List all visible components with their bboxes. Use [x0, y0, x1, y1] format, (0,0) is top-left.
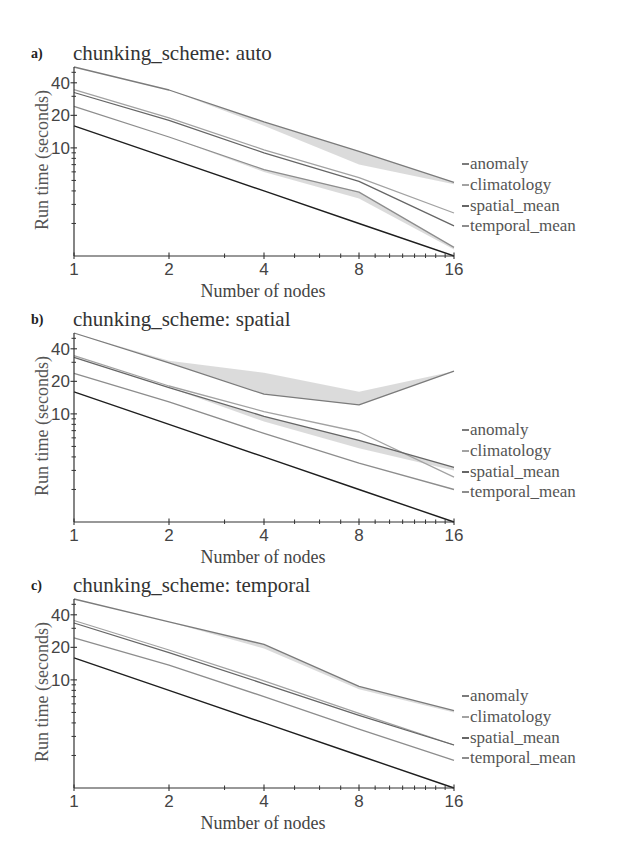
y-tick-label: 10 [51, 405, 70, 424]
legend-label: temporal_mean [470, 748, 576, 768]
legend-swatch-icon [462, 695, 469, 697]
y-axis-label: Run time (seconds) [32, 60, 52, 260]
panel-title: chunking_scheme: spatial [73, 307, 291, 332]
confidence-band-anomaly [74, 599, 454, 712]
x-tick-label: 8 [354, 792, 363, 811]
legend-item-spatial-mean: spatial_mean [462, 461, 576, 482]
legend-swatch-icon [462, 205, 469, 207]
legend-item-climatology: climatology [462, 175, 576, 196]
legend-label: anomaly [470, 154, 529, 174]
y-axis-label: Run time (seconds) [32, 326, 52, 526]
legend-swatch-icon [462, 225, 469, 227]
series-line-temporal-mean [74, 106, 454, 247]
legend-item-temporal-mean: temporal_mean [462, 748, 576, 769]
legend-item-climatology: climatology [462, 707, 576, 728]
legend-item-anomaly: anomaly [462, 420, 576, 441]
x-axis-label: Number of nodes [163, 812, 363, 834]
legend-label: climatology [470, 707, 551, 727]
legend: anomaly climatology spatial_mean tempora… [462, 154, 576, 237]
panel-title: chunking_scheme: auto [73, 41, 272, 66]
x-tick-label: 4 [259, 792, 268, 811]
figure: 102040124816 a) chunking_scheme: auto Ru… [0, 0, 619, 867]
legend-item-anomaly: anomaly [462, 686, 576, 707]
legend-item-temporal-mean: temporal_mean [462, 216, 576, 237]
y-tick-label: 10 [51, 139, 70, 158]
confidence-band-temporal-mean [74, 106, 454, 249]
series-line-ideal [74, 658, 454, 788]
legend-swatch-icon [462, 737, 469, 739]
x-tick-label: 1 [69, 792, 78, 811]
legend-swatch-icon [462, 471, 469, 473]
legend-label: spatial_mean [470, 728, 560, 748]
panel-auto: 102040124816 a) chunking_scheme: auto Ru… [0, 0, 619, 266]
panel-spatial: 102040124816 b) chunking_scheme: spatial… [0, 266, 619, 532]
legend-label: anomaly [470, 686, 529, 706]
series-line-ideal [74, 126, 454, 256]
legend-swatch-icon [462, 429, 469, 431]
y-tick-label: 20 [51, 372, 70, 391]
legend-label: temporal_mean [470, 482, 576, 502]
legend: anomaly climatology spatial_mean tempora… [462, 420, 576, 503]
legend-swatch-icon [462, 450, 469, 452]
confidence-band-anomaly [74, 67, 454, 184]
x-tick-label: 16 [445, 792, 464, 811]
legend-item-anomaly: anomaly [462, 154, 576, 175]
legend-swatch-icon [462, 716, 469, 718]
legend-item-spatial-mean: spatial_mean [462, 727, 576, 748]
y-tick-label: 20 [51, 638, 70, 657]
series-line-temporal-mean [74, 638, 454, 761]
y-tick-label: 40 [51, 74, 70, 93]
y-tick-label: 40 [51, 606, 70, 625]
legend-item-temporal-mean: temporal_mean [462, 482, 576, 503]
series-line-climatology [74, 621, 454, 746]
legend: anomaly climatology spatial_mean tempora… [462, 686, 576, 769]
series-line-spatial-mean [74, 93, 454, 226]
legend-label: temporal_mean [470, 216, 576, 236]
legend-label: anomaly [470, 420, 529, 440]
legend-label: climatology [470, 441, 551, 461]
panel-title: chunking_scheme: temporal [73, 573, 310, 598]
y-tick-label: 20 [51, 106, 70, 125]
legend-swatch-icon [462, 163, 469, 165]
x-tick-label: 2 [164, 792, 173, 811]
legend-swatch-icon [462, 184, 469, 186]
legend-label: spatial_mean [470, 196, 560, 216]
legend-label: spatial_mean [470, 462, 560, 482]
legend-item-climatology: climatology [462, 441, 576, 462]
series-line-anomaly [74, 333, 454, 405]
y-tick-label: 40 [51, 340, 70, 359]
panel-temporal: 102040124816 c) chunking_scheme: tempora… [0, 532, 619, 798]
series-line-spatial-mean [74, 623, 454, 745]
y-tick-label: 10 [51, 671, 70, 690]
legend-swatch-icon [462, 491, 469, 493]
legend-label: climatology [470, 175, 551, 195]
series-line-climatology [74, 90, 454, 213]
legend-swatch-icon [462, 757, 469, 759]
legend-item-spatial-mean: spatial_mean [462, 195, 576, 216]
y-axis-label: Run time (seconds) [32, 592, 52, 792]
